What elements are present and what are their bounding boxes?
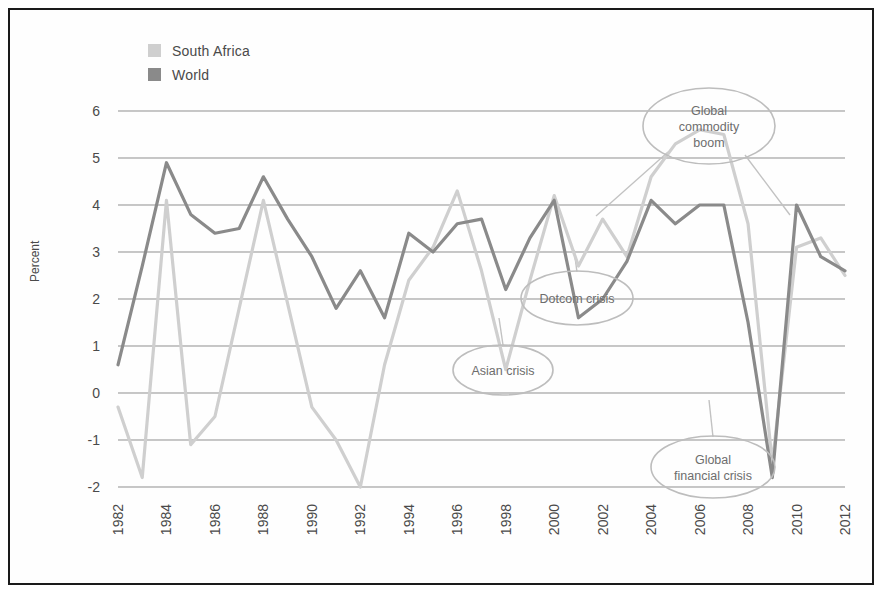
- y-tick-label: -1: [88, 432, 101, 448]
- chart-figure: South Africa World Percent 6543210-1-2 1…: [0, 0, 882, 593]
- annotation-label: Global: [695, 453, 731, 467]
- annotation-label: Dotcom crisis: [539, 292, 614, 306]
- x-tick-label: 1996: [449, 504, 465, 535]
- annotation-global-financial-crisis: Globalfinancial crisis: [651, 436, 775, 498]
- annotation-label: financial crisis: [674, 469, 752, 483]
- x-tick-label: 1998: [498, 504, 514, 535]
- series-line-south-africa: [118, 130, 845, 487]
- annotation-label: Global: [691, 104, 727, 118]
- x-tick-label: 1984: [158, 504, 174, 535]
- y-tick-label: 3: [92, 244, 100, 260]
- x-tick-label: 2002: [595, 504, 611, 535]
- annotation-leader: [709, 400, 713, 437]
- y-tick-label: -2: [88, 479, 101, 495]
- x-tick-label: 1982: [110, 504, 126, 535]
- y-tick-label: 1: [92, 338, 100, 354]
- series-line-world: [118, 163, 845, 478]
- gridlines: [118, 111, 845, 487]
- annotation-label: boom: [693, 136, 724, 150]
- x-tick-label: 1986: [207, 504, 223, 535]
- x-tick-label: 2000: [546, 504, 562, 535]
- annotation-label: Asian crisis: [471, 364, 534, 378]
- y-tick-label: 2: [92, 291, 100, 307]
- y-tick-label: 6: [92, 103, 100, 119]
- y-tick-label: 4: [92, 197, 100, 213]
- x-tick-label: 1990: [304, 504, 320, 535]
- y-tick-label: 0: [92, 385, 100, 401]
- y-axis-ticks: 6543210-1-2: [88, 103, 101, 495]
- annotation-ellipse: [651, 436, 775, 498]
- x-tick-label: 1994: [401, 504, 417, 535]
- annotation-label: commodity: [679, 120, 740, 134]
- x-tick-label: 1992: [352, 504, 368, 535]
- x-tick-label: 2004: [643, 504, 659, 535]
- x-tick-label: 2006: [692, 504, 708, 535]
- x-tick-label: 2010: [789, 504, 805, 535]
- annotation-leader: [745, 155, 790, 215]
- x-tick-label: 1988: [255, 504, 271, 535]
- y-tick-label: 5: [92, 150, 100, 166]
- x-tick-label: 2012: [837, 504, 853, 535]
- chart-canvas: 6543210-1-2 1982198419861988199019921994…: [0, 0, 882, 593]
- x-tick-label: 2008: [740, 504, 756, 535]
- annotation-global-commodity-boom: Globalcommodityboom: [643, 88, 775, 164]
- x-axis-ticks: 1982198419861988199019921994199619982000…: [110, 504, 853, 535]
- data-series-group: [118, 130, 845, 487]
